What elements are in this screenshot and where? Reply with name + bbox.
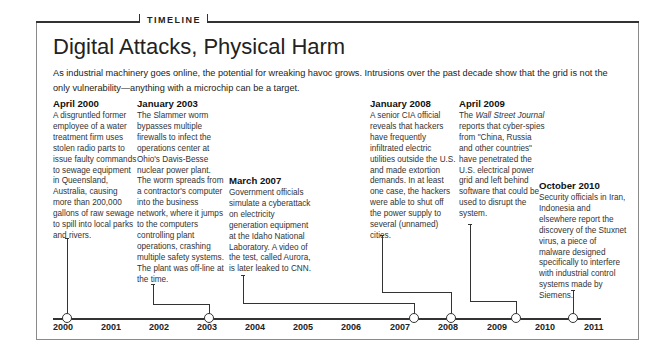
year-label: 2011 [584,322,604,332]
page-title: Digital Attacks, Physical Harm [53,34,345,60]
publication-name: Wall Street Journal [475,111,544,120]
year-label: 2004 [245,322,265,332]
leader-line-2009-b [470,301,517,302]
year-label: 2009 [487,322,507,332]
leader-line-2003-b [153,304,210,305]
leader-line-2008-b [382,292,452,293]
event-date: January 2008 [370,98,456,110]
event-date: April 2009 [459,98,545,110]
event-body: The Wall Street Journal reports that cyb… [459,111,545,220]
leader-line-2008-a [382,235,383,292]
year-label: 2007 [390,322,410,332]
leader-line-2007-b [243,303,415,304]
leader-line-2009-a [470,224,471,301]
intro-text: As industrial machinery goes online, the… [53,66,623,96]
year-label: 2008 [438,322,458,332]
year-label: 2003 [197,322,217,332]
event-january-2003: January 2003 The Slammer worm bypasses m… [137,98,225,286]
event-marker-2010 [568,313,578,323]
year-label: 2001 [101,322,121,332]
event-april-2000: April 2000 A disgruntled former employee… [53,98,137,242]
header-rule-tick-left [139,14,140,23]
leader-line-2008-c [451,292,452,315]
event-body: Security officials in Iran, Indonesia an… [539,193,627,302]
year-label: 2005 [293,322,313,332]
event-body: A senior CIA official reveals that hacke… [370,111,456,242]
event-april-2009: April 2009 The Wall Street Journal repor… [459,98,545,220]
event-october-2010: October 2010 Security officials in Iran,… [539,180,627,302]
event-marker-2009 [511,313,521,323]
event-body: Government officials simulate a cyberatt… [229,188,315,275]
event-body: The Slammer worm bypasses multiple firew… [137,111,225,286]
year-label: 2002 [149,322,169,332]
header-rule-right [207,21,639,23]
header-rule-tick-right [207,14,208,23]
year-label: 2010 [535,322,555,332]
leader-line-2007-a [243,275,244,303]
leader-line-2003-a [153,284,154,304]
event-date: October 2010 [539,180,627,192]
leader-line-2000 [67,238,68,315]
year-label: 2000 [53,322,73,332]
event-marker-2007 [409,313,419,323]
event-march-2007: March 2007 Government officials simulate… [229,175,315,275]
year-label: 2006 [341,322,361,332]
section-label: TIMELINE [147,15,201,25]
event-date: March 2007 [229,175,315,187]
event-january-2008: January 2008 A senior CIA official revea… [370,98,456,242]
event-date: April 2000 [53,98,137,110]
header-rule-left [36,21,139,23]
leader-line-2010 [573,290,574,315]
event-body: A disgruntled former employee of a water… [53,111,137,242]
event-date: January 2003 [137,98,225,110]
